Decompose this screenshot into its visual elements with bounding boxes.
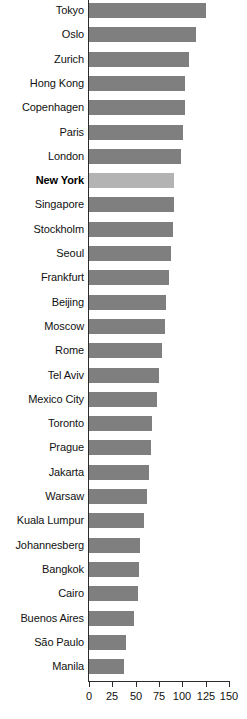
bar-row: Copenhagen	[0, 100, 247, 124]
bar-row: Tel Aviv	[0, 368, 247, 392]
bar	[89, 586, 138, 601]
category-label: Stockholm	[0, 222, 84, 237]
bar-row: London	[0, 149, 247, 173]
bar-row: Singapore	[0, 197, 247, 221]
bar	[89, 659, 124, 674]
category-label: Johannesberg	[0, 538, 84, 553]
bar	[89, 562, 139, 577]
category-label: New York	[0, 173, 84, 188]
bar	[89, 319, 165, 334]
bar	[89, 246, 171, 261]
bar-row: Beijing	[0, 295, 247, 319]
category-label: Tokyo	[0, 3, 84, 18]
category-label: Rome	[0, 343, 84, 358]
bar-row: Oslo	[0, 27, 247, 51]
bar-row: Stockholm	[0, 222, 247, 246]
category-label: Jakarta	[0, 465, 84, 480]
category-label: Hong Kong	[0, 76, 84, 91]
bar	[89, 52, 189, 67]
category-label: Zurich	[0, 52, 84, 67]
x-axis-tick-label: 125	[197, 690, 215, 702]
bar	[89, 295, 166, 310]
bar	[89, 173, 174, 188]
bar-row: Moscow	[0, 319, 247, 343]
bar	[89, 513, 144, 528]
bar-row: São Paulo	[0, 635, 247, 659]
bar	[89, 368, 159, 383]
category-label: Mexico City	[0, 392, 84, 407]
bar-row: Seoul	[0, 246, 247, 270]
bar-row: Buenos Aires	[0, 611, 247, 635]
bar-row: Toronto	[0, 416, 247, 440]
bar	[89, 27, 196, 42]
x-axis-tick	[159, 682, 160, 687]
bar-row: Kuala Lumpur	[0, 513, 247, 537]
x-axis-tick-label: 0	[86, 690, 92, 702]
x-axis-tick	[112, 682, 113, 687]
plot-area: TokyoOsloZurichHong KongCopenhagenParisL…	[0, 0, 247, 685]
bar-row: Rome	[0, 343, 247, 367]
category-label: Kuala Lumpur	[0, 513, 84, 528]
bar	[89, 149, 181, 164]
category-label: Manila	[0, 659, 84, 674]
bar	[89, 611, 134, 626]
bar-row: Frankfurt	[0, 270, 247, 294]
bar	[89, 489, 147, 504]
category-label: Copenhagen	[0, 100, 84, 115]
bar-row: Johannesberg	[0, 538, 247, 562]
bar-row: Zurich	[0, 52, 247, 76]
category-label: Tel Aviv	[0, 368, 84, 383]
bar	[89, 3, 206, 18]
bar-row: Hong Kong	[0, 76, 247, 100]
bar-row: Manila	[0, 659, 247, 683]
bar	[89, 125, 183, 140]
bar	[89, 343, 162, 358]
x-axis-tick-label: 25	[106, 690, 118, 702]
category-label: Prague	[0, 440, 84, 455]
category-label: Oslo	[0, 27, 84, 42]
bar	[89, 538, 140, 553]
bar-row: New York	[0, 173, 247, 197]
bar	[89, 270, 169, 285]
x-axis-tick-label: 150	[220, 690, 238, 702]
category-label: Moscow	[0, 319, 84, 334]
category-label: Beijing	[0, 295, 84, 310]
bar-row: Cairo	[0, 586, 247, 610]
bar-row: Jakarta	[0, 465, 247, 489]
category-label: Seoul	[0, 246, 84, 261]
category-label: Frankfurt	[0, 270, 84, 285]
x-axis-tick-label: 75	[153, 690, 165, 702]
category-label: Singapore	[0, 197, 84, 212]
x-axis-tick	[206, 682, 207, 687]
x-axis-tick-label: 100	[173, 690, 191, 702]
bar	[89, 392, 157, 407]
category-label: Toronto	[0, 416, 84, 431]
bar	[89, 76, 185, 91]
x-axis-tick-label: 50	[130, 690, 142, 702]
bar-chart: TokyoOsloZurichHong KongCopenhagenParisL…	[0, 0, 247, 719]
bar-row: Bangkok	[0, 562, 247, 586]
category-label: Cairo	[0, 586, 84, 601]
category-label: Buenos Aires	[0, 611, 84, 626]
bar-row: Warsaw	[0, 489, 247, 513]
bar	[89, 100, 185, 115]
category-label: Paris	[0, 125, 84, 140]
bar	[89, 440, 151, 455]
x-axis-tick	[89, 682, 90, 687]
x-axis-tick	[229, 682, 230, 687]
x-axis-tick	[182, 682, 183, 687]
bar	[89, 222, 173, 237]
bar-row: Paris	[0, 125, 247, 149]
bar	[89, 465, 149, 480]
bar-row: Tokyo	[0, 3, 247, 27]
bar-row: Prague	[0, 440, 247, 464]
category-label: Bangkok	[0, 562, 84, 577]
category-label: Warsaw	[0, 489, 84, 504]
x-axis-tick	[136, 682, 137, 687]
category-label: London	[0, 149, 84, 164]
category-label: São Paulo	[0, 635, 84, 650]
bar-row: Mexico City	[0, 392, 247, 416]
bar	[89, 416, 152, 431]
bar	[89, 635, 126, 650]
bar	[89, 197, 174, 212]
